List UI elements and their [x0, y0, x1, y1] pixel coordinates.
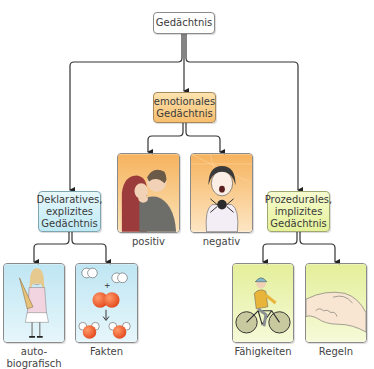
node-label-line: explizites	[46, 206, 93, 218]
node-deklaratives-gedaechtnis: Deklaratives, explizites Gedächtnis	[38, 191, 101, 232]
cyclist-icon	[233, 264, 293, 342]
label-fakten: Fakten	[75, 346, 138, 358]
label-faehigkeiten: Fähigkeiten	[226, 346, 300, 358]
illustration-faehigkeiten	[232, 263, 294, 343]
molecule-reaction-icon: +	[76, 264, 137, 342]
node-label-line: emotionales	[154, 96, 215, 108]
kissing-couple-icon	[118, 154, 179, 232]
handshake-icon	[306, 264, 366, 342]
node-label-line: Gedächtnis	[270, 218, 326, 230]
node-label-line: Gedächtnis	[156, 108, 212, 120]
girl-with-school-cone-icon	[4, 264, 64, 342]
illustration-autobiografisch	[3, 263, 65, 343]
node-label-line: Deklaratives,	[37, 194, 103, 206]
label-positiv: positiv	[117, 236, 180, 248]
node-prozedurales-gedaechtnis: Prozedurales, implizites Gedächtnis	[267, 191, 330, 232]
node-emotionales-gedaechtnis: emotionales Gedächtnis	[153, 92, 216, 123]
illustration-regeln	[305, 263, 367, 343]
illustration-negativ	[190, 153, 253, 233]
label-line: biografisch	[3, 358, 65, 369]
label-regeln: Regeln	[305, 346, 367, 358]
label-line: auto-	[3, 346, 65, 358]
svg-text:+: +	[104, 281, 110, 290]
label-negativ: negativ	[190, 236, 253, 248]
illustration-fakten: +	[75, 263, 138, 343]
node-label: Gedächtnis	[156, 17, 212, 29]
node-label-line: Prozedurales,	[265, 194, 333, 206]
node-label-line: implizites	[275, 206, 323, 218]
node-label-line: Gedächtnis	[41, 218, 97, 230]
illustration-positiv	[117, 153, 180, 233]
label-autobiografisch: auto- biografisch	[3, 346, 65, 369]
girl-with-spider-icon	[191, 154, 252, 232]
node-gedaechtnis: Gedächtnis	[153, 12, 215, 34]
